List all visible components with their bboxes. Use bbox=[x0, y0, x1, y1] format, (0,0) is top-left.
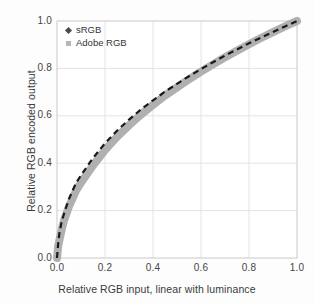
x-tick-label-0_6: 0.6 bbox=[186, 262, 216, 273]
x-tick-label-0_0: 0.0 bbox=[42, 262, 72, 273]
x-axis-title: Relative RGB input, linear with luminanc… bbox=[0, 283, 314, 295]
x-tick-label-0_4: 0.4 bbox=[138, 262, 168, 273]
legend-item-srgb: sRGB bbox=[64, 23, 127, 36]
diamond-marker-icon bbox=[64, 23, 73, 36]
square-marker-icon bbox=[64, 36, 73, 49]
y-tick-label-1_0: 1.0 bbox=[26, 15, 52, 26]
chart-container: sRGB Adobe RGB 1.0 0.8 0.6 0.4 0.2 0.0 0… bbox=[0, 0, 314, 304]
plot-background bbox=[57, 21, 297, 258]
x-tick-label-1_0: 1.0 bbox=[282, 262, 312, 273]
chart-legend: sRGB Adobe RGB bbox=[64, 23, 127, 49]
legend-item-adobe-rgb: Adobe RGB bbox=[64, 36, 127, 49]
legend-label-adobe-rgb: Adobe RGB bbox=[76, 36, 127, 49]
x-tick-label-0_8: 0.8 bbox=[234, 262, 264, 273]
y-axis-title: Relative RGB encoded output bbox=[25, 46, 37, 236]
legend-label-srgb: sRGB bbox=[76, 23, 101, 36]
x-tick-label-0_2: 0.2 bbox=[90, 262, 120, 273]
